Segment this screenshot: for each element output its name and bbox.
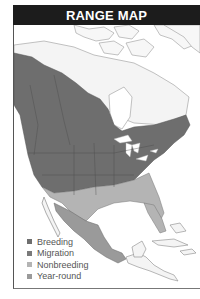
legend-item-year-round: Year-round [27,271,89,282]
map-legend: Breeding Migration Nonbreeding Year-roun… [27,236,89,282]
breeding-swatch-icon [27,239,32,244]
year-round-swatch-icon [27,274,32,279]
baja-california [42,197,60,237]
legend-item-nonbreeding: Nonbreeding [27,259,89,270]
range-map-header: RANGE MAP [13,5,200,25]
migration-swatch-icon [27,251,32,256]
legend-item-breeding: Breeding [27,236,89,247]
legend-item-migration: Migration [27,248,89,259]
florida [144,203,166,233]
range-map-title: RANGE MAP [66,8,147,23]
yucatan [132,241,146,257]
nonbreeding-swatch-icon [27,262,32,267]
